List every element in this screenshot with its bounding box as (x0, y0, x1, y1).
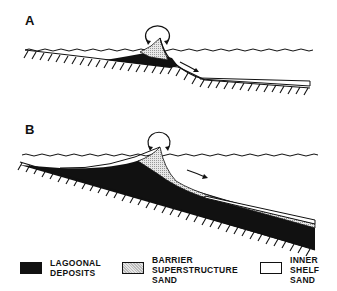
water-surface-b (22, 154, 318, 156)
legend-barrier-line2: SUPERSTRUCTURE (152, 265, 238, 275)
shelf-swatch (260, 262, 282, 274)
inner-shelf-sand-a (200, 78, 310, 86)
legend-lagoonal-line1: LAGOONAL (50, 258, 101, 268)
water-surface-a (25, 49, 313, 51)
legend-shelf-line1: INNER (290, 255, 319, 265)
legend-lagoonal-deposits: LAGOONAL DEPOSITS (20, 258, 101, 278)
legend-barrier-line3: SAND (152, 275, 238, 285)
barrier-cross-section-diagram (0, 0, 337, 291)
panel-a (24, 26, 313, 95)
barrier-swatch (122, 262, 144, 274)
legend-barrier-line1: BARRIER (152, 255, 238, 265)
legend-barrier-superstructure-sand: BARRIER SUPERSTRUCTURE SAND (122, 255, 238, 285)
legend-shelf-line2: SHELF (290, 265, 319, 275)
legend-lagoonal-line2: DEPOSITS (50, 268, 101, 278)
legend-shelf-line3: SAND (290, 275, 319, 285)
wave-circulation-arrow-icon-a (146, 26, 170, 42)
wave-circulation-arrow-icon-b (148, 132, 170, 148)
offshore-transport-arrow-icon-b (187, 170, 205, 177)
lagoonal-swatch (20, 262, 42, 274)
panel-b (18, 132, 318, 256)
legend-inner-shelf-sand: INNER SHELF SAND (260, 255, 319, 285)
